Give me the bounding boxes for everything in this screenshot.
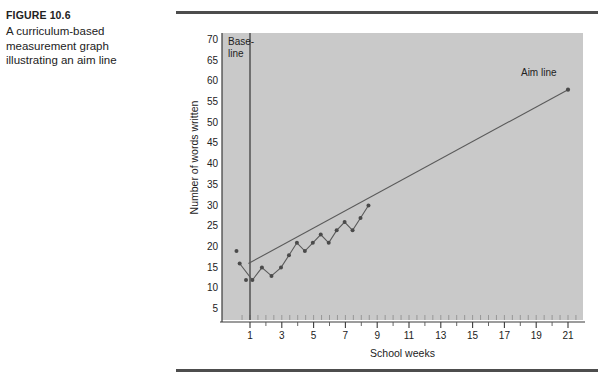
data-point-marker	[335, 228, 339, 232]
cbm-graph: 510152025303540455055606570 135791113151…	[176, 22, 598, 364]
figure-caption-text: A curriculum-based measurement graph ill…	[6, 24, 166, 68]
data-point-marker	[319, 233, 323, 237]
data-point-marker	[244, 278, 248, 282]
aim-line-annotation: Aim line	[521, 67, 557, 78]
data-point-marker	[250, 278, 254, 282]
data-point-marker	[234, 249, 238, 253]
data-point-marker	[269, 274, 273, 278]
data-point-marker	[238, 261, 242, 265]
series-line-aim-line	[248, 90, 568, 264]
aim-line-endpoint-marker	[566, 88, 570, 92]
data-point-marker	[327, 241, 331, 245]
data-point-marker	[311, 241, 315, 245]
baseline-annotation: Base- line	[228, 36, 254, 59]
data-point-marker	[343, 220, 347, 224]
y-axis-title: Number of words written	[189, 78, 200, 238]
data-point-marker	[351, 228, 355, 232]
figure-rule-top	[176, 11, 598, 14]
data-point-marker	[279, 266, 283, 270]
data-point-marker	[287, 253, 291, 257]
figure-caption-block: FIGURE 10.6 A curriculum-based measureme…	[6, 8, 166, 68]
x-axis-title: School weeks	[222, 347, 583, 359]
data-point-marker	[359, 216, 363, 220]
data-point-marker	[260, 266, 264, 270]
figure-number: FIGURE 10.6	[6, 8, 166, 22]
figure-rule-bottom	[176, 369, 598, 372]
series-line-words-written-per-week	[240, 206, 369, 280]
data-point-marker	[303, 249, 307, 253]
data-point-marker	[366, 204, 370, 208]
data-point-marker	[295, 241, 299, 245]
